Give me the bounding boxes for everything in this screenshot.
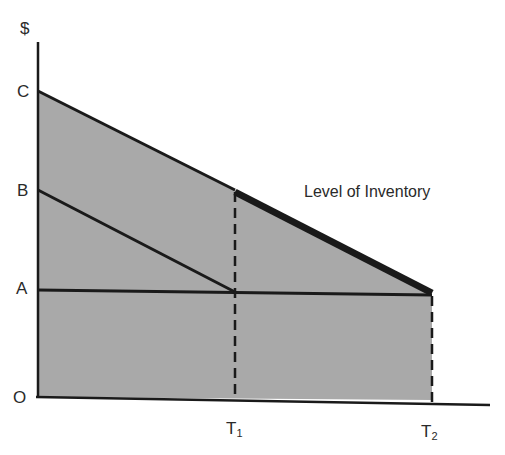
label-c: C (17, 83, 29, 100)
y-axis-label: $ (20, 20, 29, 37)
label-b: B (17, 182, 28, 199)
label-o: O (13, 389, 26, 406)
level-of-inventory-label: Level of Inventory (304, 184, 430, 200)
label-a: A (16, 280, 27, 297)
inventory-diagram (0, 0, 505, 455)
label-t2: T2 (421, 423, 438, 442)
label-t1: T1 (226, 420, 243, 439)
